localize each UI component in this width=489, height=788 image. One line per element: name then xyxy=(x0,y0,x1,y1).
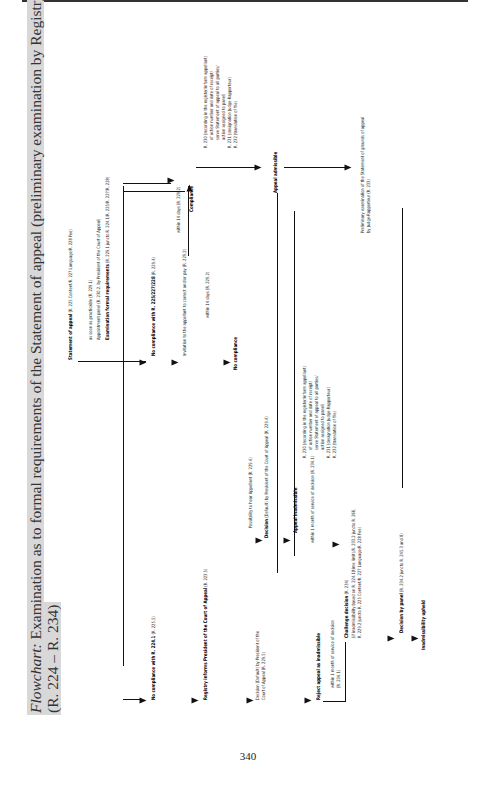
note-within14-b: within 14 days (R. 229.2) xyxy=(176,187,182,233)
node-no-compliance: No compliance xyxy=(232,337,238,370)
node-decision-default-a: Decision (Default) by President of the C… xyxy=(263,416,270,538)
node-statement: Statement of appeal (R. 225 Content/R. 2… xyxy=(67,229,74,360)
flowchart-title: Flowchart: Examination as to formal requ… xyxy=(27,0,44,715)
node-reject: Reject appeal as inadmissible xyxy=(315,633,321,700)
node-appeal-inadmissible: Appeal inadmissible xyxy=(292,488,298,533)
note-challenge-detail: (if inadmissibility based on R. 224.1(ti… xyxy=(351,509,363,638)
node-preliminary: Preliminary examination of the Statement… xyxy=(360,117,372,233)
node-inadmissibility-upheld: Inadmissibility upheld xyxy=(420,600,426,650)
node-challenge: Challenge decision (R. 234) xyxy=(343,580,350,638)
node-no-compliance-224: No compliance with R. 224.1 (R. 225.5) xyxy=(150,616,157,700)
note-within1-b: within 1 month of service of decision (R… xyxy=(330,620,342,688)
note-possibility: Possibility to hear Appellant (R. 229.4) xyxy=(248,457,254,528)
node-compliance: Compliance xyxy=(188,186,194,212)
page-number: 340 xyxy=(228,750,268,762)
note-r230-top: R. 230 (recording in the register/inform… xyxy=(203,56,239,148)
note-soon: as soon as practicable (R. 229.1) xyxy=(88,280,94,340)
note-exam: Examination formal requirements (R. 229.… xyxy=(104,177,111,340)
note-within14-a: within 14 days (R. 229.2) xyxy=(205,272,211,318)
note-invitation: Invitation to the appellant to correct a… xyxy=(182,249,188,356)
title-line1: Examination as to formal requirements of… xyxy=(27,0,44,639)
node-decision-default-b: Decision (Default) by President of the C… xyxy=(255,631,267,700)
note-panel: Appointment panel (R. 230.2. by Presiden… xyxy=(96,219,102,340)
node-no-compliance-225: No compliance with R. 225/227/228 (R. 22… xyxy=(150,257,157,356)
note-r230-bottom: R. 230 (recording in the register/inform… xyxy=(302,366,338,458)
note-within1-a: within 1 month of service of decision (R… xyxy=(310,456,316,543)
node-decision-panel: Decision by panel (R. 234.2 juncto R. 24… xyxy=(398,533,405,633)
flowchart-canvas: Flowchart: Examination as to formal requ… xyxy=(0,0,489,788)
node-registry-informs: Registry informs President of the Court … xyxy=(202,569,209,700)
title-italic: Flowchart: xyxy=(27,643,44,713)
node-appeal-admissible: Appeal admissible xyxy=(272,152,278,193)
connector-main xyxy=(123,186,124,666)
flowchart-title-line2: (R. 224 – R. 234) xyxy=(44,603,61,716)
